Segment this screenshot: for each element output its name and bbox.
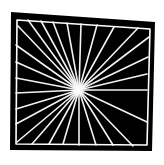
starburst-figure <box>0 0 164 165</box>
figure-root <box>0 0 164 165</box>
center-glow <box>72 83 86 97</box>
